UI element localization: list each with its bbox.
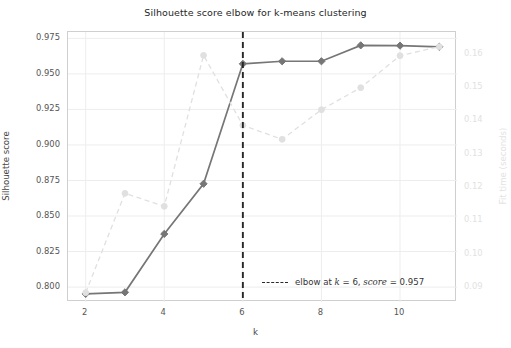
y-tick-label-left: 0.950 — [16, 68, 60, 78]
legend-dashed-line-icon — [262, 282, 288, 283]
y-axis-label-left: Silhouette score — [1, 131, 11, 201]
y-tick-label-left: 0.925 — [16, 103, 60, 113]
plot-area — [67, 31, 456, 301]
y-tick-label-right: 0.15 — [464, 81, 504, 91]
data-point — [279, 58, 286, 65]
y-tick-label-right: 0.10 — [464, 248, 504, 258]
y-tick-label-left: 0.825 — [16, 246, 60, 256]
chart-legend: elbow at k = 6, score = 0.957 — [262, 277, 424, 287]
y-tick-label-left: 0.850 — [16, 210, 60, 220]
x-axis-label: k — [0, 327, 511, 337]
data-point — [122, 190, 128, 196]
data-point — [318, 58, 325, 65]
legend-label: elbow at k = 6, score = 0.957 — [295, 277, 424, 287]
data-point — [161, 203, 167, 209]
series-layer — [82, 42, 443, 298]
data-point — [397, 53, 403, 59]
series-line-0 — [86, 45, 440, 294]
chart-title: Silhouette score elbow for k-means clust… — [0, 7, 511, 18]
y-tick-label-left: 0.900 — [16, 139, 60, 149]
y-tick-label-right: 0.14 — [464, 114, 504, 124]
x-tick-label: 4 — [161, 307, 166, 317]
x-tick-label: 2 — [82, 307, 87, 317]
data-point — [83, 290, 89, 296]
y-tick-label-right: 0.11 — [464, 214, 504, 224]
y-tick-label-left: 0.875 — [16, 175, 60, 185]
plot-svg — [68, 32, 457, 302]
data-point — [201, 52, 207, 58]
x-tick-label: 10 — [394, 307, 405, 317]
data-point — [436, 44, 442, 50]
x-tick-label: 6 — [239, 307, 244, 317]
data-point — [358, 85, 364, 91]
gridlines — [68, 32, 457, 302]
y-tick-label-right: 0.13 — [464, 148, 504, 158]
data-point — [396, 42, 403, 49]
x-tick-label: 8 — [318, 307, 323, 317]
y-tick-label-left: 0.975 — [16, 32, 60, 42]
chart-figure: Silhouette score elbow for k-means clust… — [0, 0, 511, 348]
data-point — [319, 107, 325, 113]
y-tick-label-right: 0.09 — [464, 281, 504, 291]
y-axis-label-right: Fit time (seconds) — [498, 128, 508, 205]
y-tick-label-left: 0.800 — [16, 281, 60, 291]
data-point — [357, 42, 364, 49]
y-tick-label-right: 0.16 — [464, 48, 504, 58]
series-line-1 — [86, 47, 440, 293]
data-point — [279, 136, 285, 142]
y-tick-label-right: 0.12 — [464, 181, 504, 191]
